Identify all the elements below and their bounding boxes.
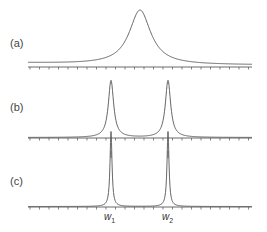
w1-label-sub: 1 xyxy=(111,217,115,224)
panel-c xyxy=(28,131,252,209)
panel-label-c: (c) xyxy=(10,175,23,187)
curve-a xyxy=(28,10,252,64)
panel-label-b: (b) xyxy=(10,101,23,113)
curve-c xyxy=(28,131,252,206)
panel-label-a: (a) xyxy=(10,37,23,49)
spectra-figure xyxy=(0,0,267,232)
panel-a xyxy=(28,10,252,70)
w2-label: w2 xyxy=(162,211,173,224)
w2-label-sub: 2 xyxy=(169,217,173,224)
panel-b xyxy=(28,80,252,158)
w1-label: w1 xyxy=(104,211,115,224)
curve-b xyxy=(28,80,252,137)
